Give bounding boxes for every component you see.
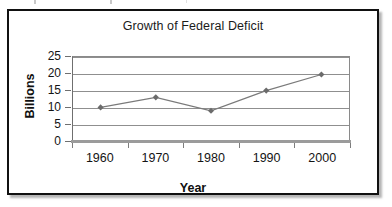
x-axis-tick bbox=[72, 143, 73, 148]
x-axis-tick-label: 2000 bbox=[292, 151, 352, 165]
x-axis-tick bbox=[350, 143, 351, 148]
plot-area bbox=[72, 56, 350, 141]
series-markers bbox=[98, 71, 325, 113]
scan-artifact bbox=[110, 0, 112, 4]
x-axis-tick-label: 1960 bbox=[70, 151, 130, 165]
scan-artifact bbox=[34, 0, 36, 4]
x-axis-tick-label: 1980 bbox=[181, 151, 241, 165]
y-axis-tick-label: 25 bbox=[37, 50, 61, 62]
data-point-marker bbox=[208, 108, 214, 114]
y-axis-tick-label: 0 bbox=[37, 135, 61, 147]
data-point-marker bbox=[318, 71, 324, 77]
y-axis-tick bbox=[65, 56, 71, 57]
y-axis-tick bbox=[65, 124, 71, 125]
data-point-marker bbox=[98, 104, 104, 110]
y-axis-tick bbox=[65, 73, 71, 74]
y-axis-tick bbox=[65, 107, 71, 108]
data-point-marker bbox=[263, 88, 269, 94]
x-axis-tick-label: 1990 bbox=[237, 151, 297, 165]
data-series-line bbox=[73, 57, 349, 141]
y-axis-tick-label: 20 bbox=[37, 67, 61, 79]
chart-figure-frame: Growth of Federal Deficit Billions 05101… bbox=[7, 9, 379, 195]
y-axis-tick-label: 10 bbox=[37, 101, 61, 113]
data-point-marker bbox=[153, 94, 159, 100]
series-polyline bbox=[101, 74, 322, 110]
x-axis-tick-label: 1970 bbox=[125, 151, 185, 165]
y-axis-title: Billions bbox=[23, 56, 37, 136]
scan-artifact bbox=[186, 0, 187, 3]
x-axis-title: Year bbox=[9, 181, 377, 195]
x-axis-baseline bbox=[71, 140, 351, 143]
chart-title: Growth of Federal Deficit bbox=[9, 19, 377, 33]
x-axis-tick bbox=[294, 143, 295, 148]
y-axis-tick-label: 15 bbox=[37, 84, 61, 96]
y-axis-tick-label: 5 bbox=[37, 118, 61, 130]
x-axis-tick bbox=[128, 143, 129, 148]
y-axis-tick bbox=[65, 90, 71, 91]
x-axis-tick bbox=[239, 143, 240, 148]
x-axis-tick bbox=[183, 143, 184, 148]
